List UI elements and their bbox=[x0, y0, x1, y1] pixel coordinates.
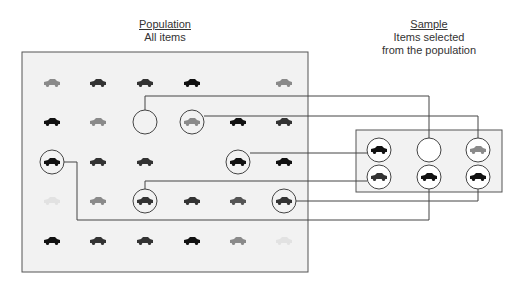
sampling-diagram bbox=[0, 0, 521, 285]
sample-circle bbox=[417, 138, 441, 162]
